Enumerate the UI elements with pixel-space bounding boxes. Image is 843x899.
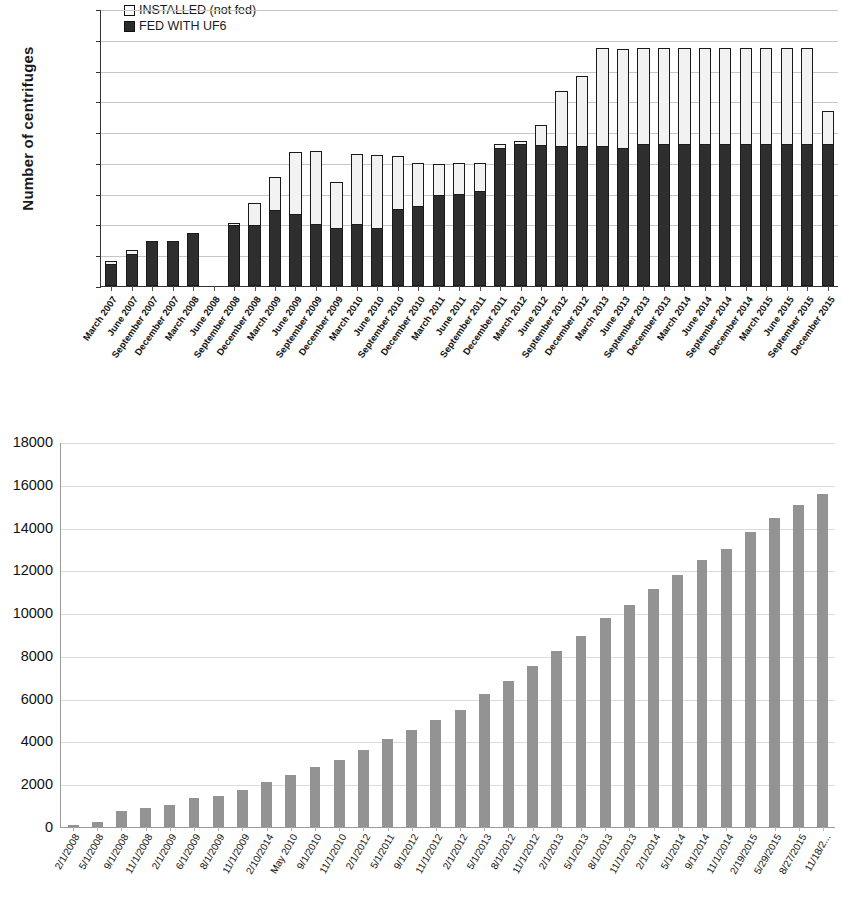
bar-slot <box>162 10 182 286</box>
bar-segment-installed <box>760 48 772 145</box>
x-tick-mark <box>602 286 603 291</box>
bar <box>600 618 611 827</box>
bar <box>745 532 756 827</box>
x-tick-mark <box>234 286 235 291</box>
bar-segment-installed <box>740 48 752 145</box>
stacked-bar <box>412 163 424 286</box>
bar-segment-fed <box>187 233 199 286</box>
y-tick-label: 14000 <box>0 520 53 536</box>
bar <box>455 710 466 827</box>
bar-slot <box>255 443 279 827</box>
x-axis-label: 11/18/2... <box>811 830 835 899</box>
chart1-x-axis-labels: March 2007June 2007September 2007Decembe… <box>100 292 838 392</box>
bar-segment-fed <box>228 225 240 286</box>
x-tick-mark <box>336 286 337 291</box>
bar-segment-fed <box>822 144 834 286</box>
x-tick-mark <box>193 286 194 291</box>
bar <box>672 575 683 827</box>
x-tick-mark <box>725 286 726 291</box>
bar-segment-fed <box>760 144 772 286</box>
chart2-bars <box>61 443 835 827</box>
bar <box>406 730 417 827</box>
x-tick-mark <box>275 286 276 291</box>
bar-segment-installed <box>576 76 588 146</box>
x-tick-mark <box>132 286 133 291</box>
stacked-bar <box>555 91 567 286</box>
bar-slot <box>787 443 811 827</box>
bar-segment-fed <box>167 241 179 286</box>
bar-slot <box>613 10 633 286</box>
bar-slot <box>142 10 162 286</box>
stacked-bar <box>248 203 260 286</box>
bar-slot <box>695 10 715 286</box>
bar-slot <box>279 443 303 827</box>
bar-segment-installed <box>596 48 608 146</box>
stacked-bar <box>187 233 199 286</box>
bar <box>503 681 514 828</box>
bar-slot <box>285 10 305 286</box>
bar-slot <box>674 10 694 286</box>
y-tick-label: 10000 <box>0 605 53 621</box>
bar-slot <box>400 443 424 827</box>
y-tick-label: 8000 <box>0 648 53 664</box>
x-tick-mark <box>807 286 808 291</box>
bar-segment-fed <box>269 210 281 286</box>
stacked-bar <box>474 163 486 286</box>
bar <box>527 666 538 827</box>
stacked-bar <box>433 164 445 286</box>
bar-slot <box>265 10 285 286</box>
bar-segment-installed <box>371 155 383 227</box>
x-tick-mark <box>541 286 542 291</box>
x-tick-mark <box>255 286 256 291</box>
x-tick-mark <box>214 286 215 291</box>
bar-slot <box>449 10 469 286</box>
bar-segment-installed <box>555 91 567 146</box>
chart1-y-axis-label: Number of centrifuges <box>19 44 36 214</box>
stacked-bar <box>167 241 179 286</box>
bar-segment-installed <box>781 48 793 145</box>
bar-segment-fed <box>555 146 567 286</box>
bar-segment-fed <box>781 144 793 286</box>
bar-segment-fed <box>474 191 486 286</box>
y-tick-label: 18000 <box>0 434 53 450</box>
bar-segment-installed <box>637 48 649 145</box>
bar <box>551 651 562 827</box>
bar-slot <box>203 10 223 286</box>
bar-slot <box>531 10 551 286</box>
y-tick-mark <box>96 287 101 288</box>
stacked-bar <box>678 48 690 287</box>
bar-slot <box>85 443 109 827</box>
bar-slot <box>690 443 714 827</box>
stacked-bar <box>781 48 793 287</box>
bar-slot <box>811 443 835 827</box>
stacked-bar <box>535 125 547 286</box>
bar-slot <box>351 443 375 827</box>
x-tick-mark <box>152 286 153 291</box>
bar-slot <box>715 10 735 286</box>
x-tick-mark <box>439 286 440 291</box>
bar-segment-fed <box>535 145 547 286</box>
bar-segment-fed <box>617 148 629 287</box>
bar-segment-fed <box>412 206 424 286</box>
bar-segment-installed <box>658 48 670 145</box>
bar-segment-fed <box>699 144 711 286</box>
bar <box>382 739 393 827</box>
bar-segment-installed <box>392 156 404 209</box>
stacked-bar <box>126 250 138 286</box>
bar-segment-fed <box>289 214 301 286</box>
bar-slot <box>408 10 428 286</box>
bar-slot <box>776 10 796 286</box>
bar-segment-fed <box>637 144 649 286</box>
bar-slot <box>592 10 612 286</box>
bar-segment-installed <box>678 48 690 145</box>
bar <box>576 636 587 827</box>
bar-segment-fed <box>719 144 731 286</box>
bar-slot <box>134 443 158 827</box>
bar-slot <box>158 443 182 827</box>
bar-slot <box>182 443 206 827</box>
bar-segment-fed <box>310 224 322 286</box>
bar-segment-fed <box>146 241 158 286</box>
bar-slot <box>375 443 399 827</box>
bar-segment-installed <box>719 48 731 145</box>
bar <box>213 796 224 827</box>
